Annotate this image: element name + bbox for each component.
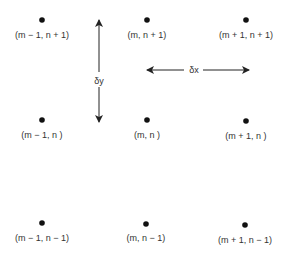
grid-point-dot [144, 117, 150, 123]
grid-point-label: (m, n − 1) [127, 233, 166, 243]
dy-label: δy [94, 76, 104, 86]
grid-point-label: (m + 1, n − 1) [218, 235, 272, 245]
grid-point-label: (m − 1, n − 1) [15, 233, 69, 243]
grid-point-dot [39, 220, 45, 226]
grid-points: (m − 1, n + 1)(m, n + 1)(m + 1, n + 1)(m… [15, 17, 273, 245]
grid-point-dot [39, 117, 45, 123]
grid-point-dot [39, 17, 45, 23]
grid-point-dot [144, 17, 150, 23]
grid-point-dot [143, 221, 149, 227]
grid-point-dot [242, 222, 248, 228]
dx-label: δx [189, 65, 199, 75]
grid-point-label: (m − 1, n ) [21, 130, 62, 140]
grid-stencil-diagram: δy δx (m − 1, n + 1)(m, n + 1)(m + 1, n … [0, 0, 295, 253]
grid-point-label: (m, n + 1) [128, 30, 167, 40]
grid-point-label: (m + 1, n + 1) [219, 30, 273, 40]
grid-point-label: (m, n ) [134, 130, 160, 140]
grid-point-label: (m − 1, n + 1) [15, 30, 69, 40]
grid-point-dot [243, 118, 249, 124]
grid-point-label: (m + 1, n ) [225, 131, 266, 141]
grid-point-dot [243, 17, 249, 23]
